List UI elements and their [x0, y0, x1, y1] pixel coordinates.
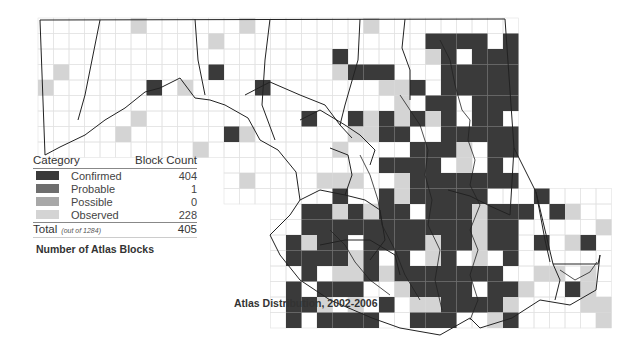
legend-count: 1	[157, 183, 197, 195]
legend-row-observed: Observed 228	[33, 208, 197, 221]
legend-header: Category Block Count	[33, 154, 197, 169]
legend-count: 228	[157, 209, 197, 221]
total-note: (out of 1284)	[61, 227, 101, 234]
legend-count: 0	[157, 196, 197, 208]
legend: Category Block Count Confirmed 404 Proba…	[33, 154, 197, 238]
legend-count: 404	[157, 170, 197, 182]
legend-row-possible: Possible 0	[33, 195, 197, 208]
legend-total: Total(out of 1284) 405	[33, 222, 197, 238]
possible-swatch	[36, 197, 59, 206]
observed-swatch	[36, 210, 59, 219]
legend-row-probable: Probable 1	[33, 182, 197, 195]
total-count: 405	[178, 223, 197, 236]
legend-label: Observed	[71, 209, 157, 221]
legend-header-category: Category	[33, 154, 80, 167]
legend-label: Possible	[71, 196, 157, 208]
probable-swatch	[36, 184, 59, 193]
legend-title: Number of Atlas Blocks	[36, 243, 154, 255]
total-label: Total	[33, 223, 57, 235]
map-title: Atlas Distribution, 2002-2006	[234, 297, 378, 309]
legend-row-confirmed: Confirmed 404	[33, 169, 197, 182]
legend-label: Probable	[71, 183, 157, 195]
confirmed-swatch	[36, 171, 59, 180]
legend-header-count: Block Count	[135, 154, 197, 167]
legend-label: Confirmed	[71, 170, 157, 182]
